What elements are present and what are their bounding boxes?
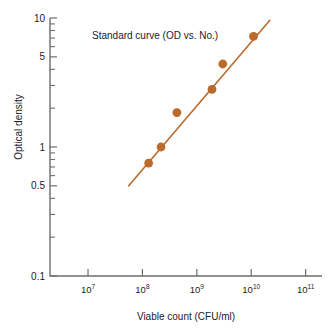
data-point[interactable] <box>157 143 166 152</box>
y-axis-tick-label: 0.5 <box>31 180 45 191</box>
data-point[interactable] <box>172 108 181 117</box>
plot-axes <box>50 18 322 276</box>
x-axis-tick-label: 108 <box>135 283 150 296</box>
y-axis-tick-label: 1 <box>39 142 45 153</box>
x-axis-title: Viable count (CFU/ml) <box>137 311 235 322</box>
standard-curve-chart: 10510.50.110710810910101011Standard curv… <box>0 0 333 328</box>
data-point[interactable] <box>218 60 227 69</box>
data-point[interactable] <box>249 32 258 41</box>
chart-container: 10510.50.110710810910101011Standard curv… <box>0 0 333 328</box>
data-point[interactable] <box>208 85 217 94</box>
y-axis-tick-label: 0.1 <box>31 271 45 282</box>
x-axis-tick-label: 109 <box>190 283 205 296</box>
x-axis-tick-label: 1010 <box>242 283 260 296</box>
data-point[interactable] <box>144 159 153 168</box>
y-axis-tick-label: 5 <box>39 51 45 62</box>
y-axis-tick-label: 10 <box>34 13 46 24</box>
chart-title: Standard curve (OD vs. No.) <box>92 30 218 41</box>
x-axis-tick-label: 107 <box>81 283 96 296</box>
y-axis-title: Optical density <box>13 94 24 160</box>
x-axis-tick-label: 1011 <box>297 283 315 296</box>
